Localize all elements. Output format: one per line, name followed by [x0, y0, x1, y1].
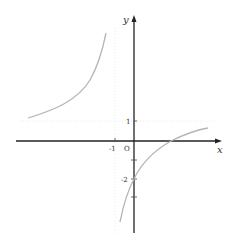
origin-label: O	[124, 145, 130, 153]
curve-left-branch	[28, 33, 106, 118]
x-tick-label-neg-one: -1	[109, 145, 116, 153]
x-axis-arrow-icon	[215, 139, 222, 144]
y-axis-label: y	[122, 14, 129, 25]
x-axis-label: x	[217, 144, 223, 155]
curve-right-branch	[120, 128, 208, 222]
y-tick-label-neg-two: -2	[121, 176, 128, 184]
y-axis-arrow-icon	[132, 15, 137, 22]
y-tick-label-one: 1	[126, 118, 130, 126]
function-graph: x y O -1 1 -2	[0, 0, 237, 250]
